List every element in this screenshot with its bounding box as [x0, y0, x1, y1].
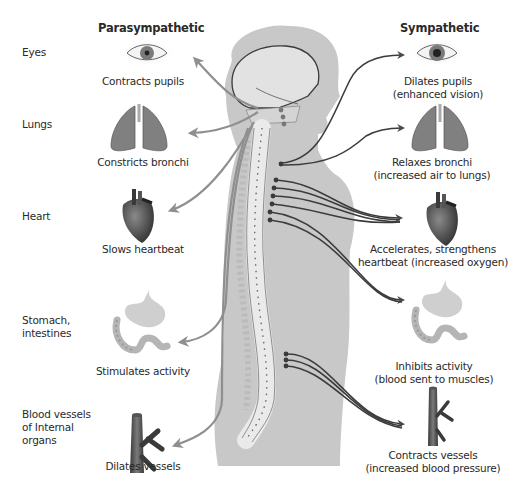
heart-icon	[427, 192, 458, 246]
organ-label-blood-vessels: Blood vessels of Internal organs	[22, 408, 91, 447]
eye-icon	[409, 39, 465, 67]
stomach-intestines-icon	[415, 280, 464, 340]
para-effect-stomach: Stimulates activity	[96, 365, 190, 378]
organ-label-heart: Heart	[22, 210, 50, 223]
heart-icon	[123, 189, 154, 243]
autonomic-nervous-system-diagram: Parasympathetic Sympathetic Eyes Lungs H…	[0, 0, 520, 492]
symp-effect-eyes: Dilates pupils (enhanced vision)	[393, 75, 484, 101]
sympathetic-header: Sympathetic	[400, 21, 479, 35]
eye-icon	[119, 39, 175, 67]
symp-effect-heart: Accelerates, strengthens heartbeat (incr…	[358, 243, 508, 269]
para-effect-vessels: Dilates vessels	[105, 460, 180, 473]
symp-effect-vessels: Contracts vessels (increased blood press…	[365, 449, 500, 475]
organ-label-eyes: Eyes	[22, 46, 46, 59]
stomach-intestines-icon	[116, 290, 167, 350]
para-effect-eyes: Contracts pupils	[102, 75, 184, 88]
organ-label-stomach-intestines: Stomach, intestines	[22, 314, 71, 340]
symp-effect-lungs: Relaxes bronchi (increased air to lungs)	[374, 156, 491, 182]
blood-vessel-icon	[428, 386, 452, 446]
parasympathetic-header: Parasympathetic	[98, 21, 204, 35]
lungs-icon	[412, 104, 468, 151]
para-effect-heart: Slows heartbeat	[102, 243, 184, 256]
lungs-icon	[111, 104, 167, 151]
organ-label-lungs: Lungs	[22, 118, 52, 131]
para-effect-lungs: Constricts bronchi	[97, 156, 189, 169]
symp-effect-stomach: Inhibits activity (blood sent to muscles…	[375, 360, 494, 386]
